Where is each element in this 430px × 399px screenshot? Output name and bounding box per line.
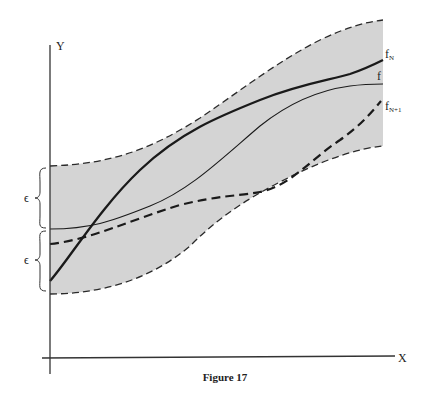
epsilon-band: [50, 20, 383, 294]
epsilon-label-lower: ϵ: [24, 253, 29, 267]
x-axis-label: X: [398, 351, 407, 365]
figure-canvas: Y X ϵ ϵ fN f fN+1: [0, 0, 430, 399]
epsilon-brace-upper: [35, 168, 46, 228]
x-axis: [42, 356, 395, 358]
label-f-n1: fN+1: [385, 99, 402, 114]
epsilon-label-upper: ϵ: [24, 191, 29, 205]
figure-caption: Figure 17: [0, 371, 430, 383]
label-f-n: fN: [385, 47, 394, 62]
figure-caption-text: Figure 17: [203, 371, 248, 383]
y-axis-label: Y: [56, 39, 65, 53]
label-f: f: [377, 69, 381, 83]
epsilon-brace-lower: [35, 231, 46, 291]
